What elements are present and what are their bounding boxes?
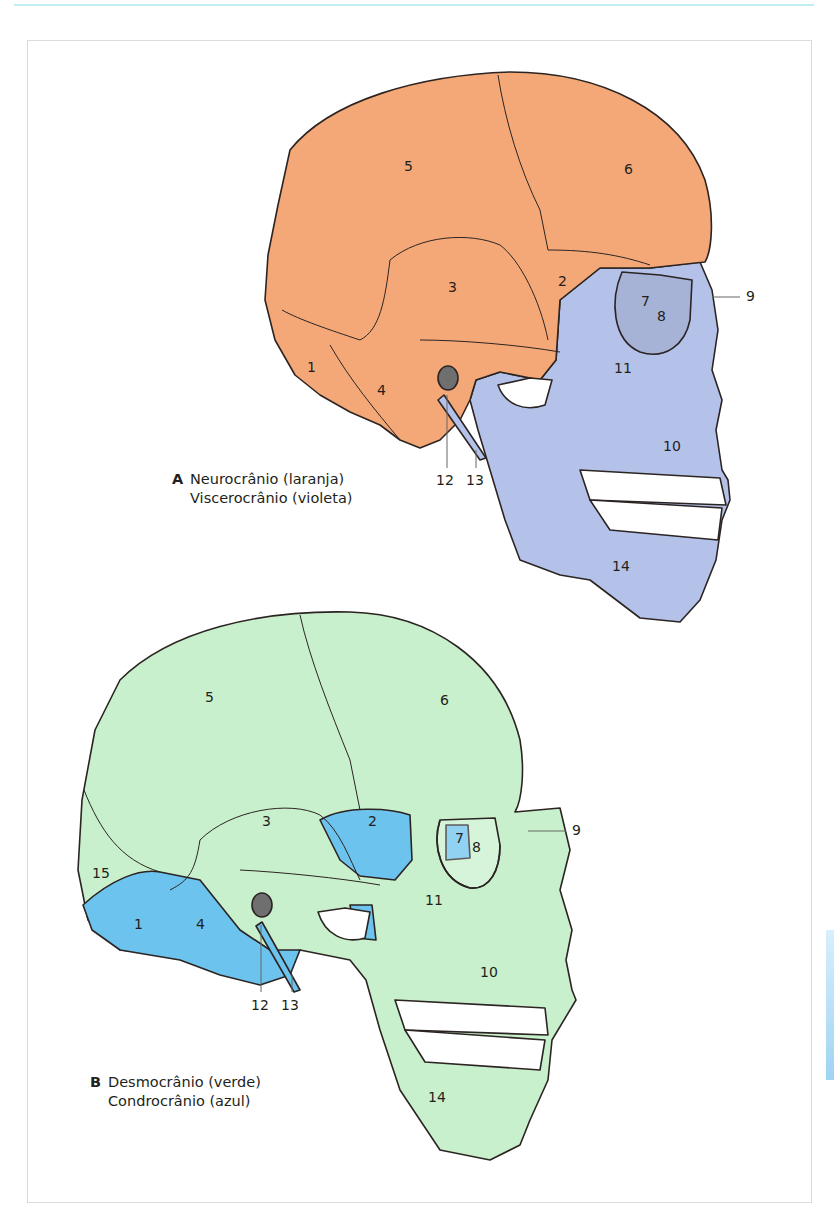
- label-a-3: 3: [448, 279, 457, 295]
- label-a-8: 8: [657, 308, 666, 324]
- label-b-11: 11: [425, 892, 443, 908]
- label-b-12: 12: [251, 997, 269, 1013]
- label-b-3: 3: [262, 813, 271, 829]
- label-a-12: 12: [436, 472, 454, 488]
- label-b-15: 15: [92, 865, 110, 881]
- label-b-8: 8: [472, 839, 481, 855]
- label-b-14: 14: [428, 1089, 446, 1105]
- label-b-7: 7: [455, 830, 464, 846]
- label-b-1: 1: [134, 916, 143, 932]
- caption-b-line2: Condrocrânio (azul): [90, 1092, 261, 1111]
- label-b-5: 5: [205, 689, 214, 705]
- label-a-1: 1: [307, 359, 316, 375]
- skull-figure-a: 5 6 3 2 7 8 9 11 1 4 10 12 13 14 5: [0, 0, 834, 1220]
- orbit: [615, 272, 692, 354]
- caption-a-line2: Viscerocrânio (violeta): [172, 489, 352, 508]
- external-acoustic-meatus-b: [252, 893, 272, 917]
- label-b-6: 6: [440, 692, 449, 708]
- label-a-9: 9: [746, 288, 755, 304]
- label-b-9: 9: [572, 822, 581, 838]
- caption-b: BDesmocrânio (verde) Condrocrânio (azul): [90, 1073, 261, 1111]
- label-a-11: 11: [614, 360, 632, 376]
- caption-b-letter: B: [90, 1073, 108, 1092]
- caption-a-letter: A: [172, 470, 190, 489]
- label-a-5: 5: [404, 158, 413, 174]
- label-a-10: 10: [663, 438, 681, 454]
- caption-a-line1: Neurocrânio (laranja): [190, 471, 344, 487]
- label-a-14: 14: [612, 558, 630, 574]
- caption-a: ANeurocrânio (laranja) Viscerocrânio (vi…: [172, 470, 352, 508]
- label-a-7: 7: [641, 293, 650, 309]
- label-a-4: 4: [377, 382, 386, 398]
- label-a-2: 2: [558, 273, 567, 289]
- label-a-6: 6: [624, 161, 633, 177]
- label-b-4: 4: [196, 916, 205, 932]
- label-b-10: 10: [480, 964, 498, 980]
- label-b-13: 13: [281, 997, 299, 1013]
- external-acoustic-meatus: [438, 366, 458, 390]
- caption-b-line1: Desmocrânio (verde): [108, 1074, 261, 1090]
- label-a-13: 13: [466, 472, 484, 488]
- label-b-2: 2: [368, 813, 377, 829]
